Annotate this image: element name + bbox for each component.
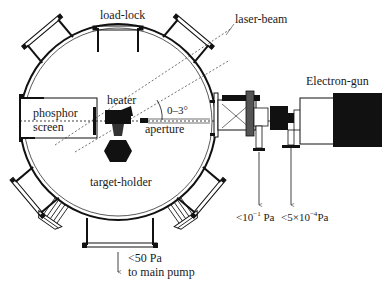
main-pump-label: to main pump (128, 265, 195, 279)
lower-left-viewport (35, 194, 73, 231)
screen-label: screen (33, 120, 64, 134)
pump-port (82, 218, 158, 248)
phosphor-label: phosphor (33, 106, 78, 120)
angle-label: 0–3° (167, 104, 188, 116)
pump-line-2 (282, 130, 300, 205)
load-lock-port (93, 26, 143, 52)
target-holder-label: target-holder (90, 175, 152, 189)
pump-pressure-label: <50 Pa (128, 251, 162, 265)
vacuum-chamber-diagram: load-lock laser-beam Electron-gun phosph… (0, 0, 391, 282)
aperture-label: aperture (145, 122, 184, 136)
electron-gun-assembly (210, 91, 382, 147)
pressure-2-label: <5×10−4Pa (281, 210, 328, 223)
target-holder (104, 124, 132, 162)
heater-label: heater (107, 93, 136, 107)
heater (105, 106, 133, 124)
electron-gun-label: Electron-gun (306, 74, 369, 88)
pump-line-1 (253, 126, 265, 205)
pressure-1-label: <10−1 Pa (236, 210, 275, 223)
laser-beam-label: laser-beam (235, 12, 288, 26)
load-lock-label: load-lock (100, 8, 145, 22)
lower-right-viewport (163, 194, 201, 231)
